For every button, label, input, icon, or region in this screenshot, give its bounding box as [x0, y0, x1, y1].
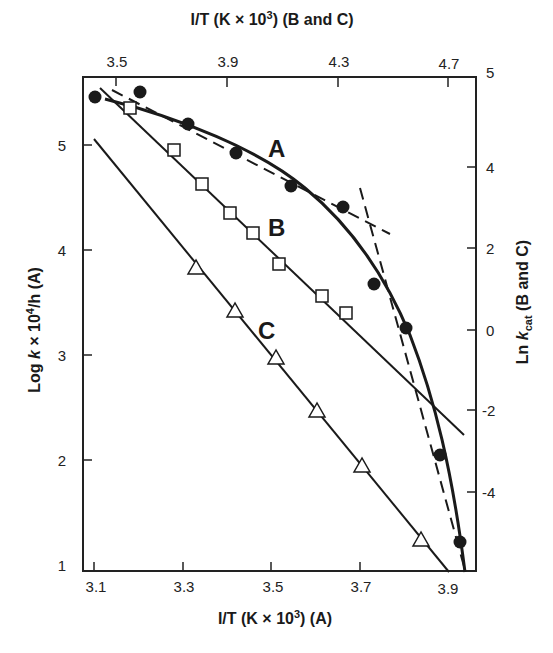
svg-text:4: 4 — [58, 242, 66, 259]
svg-text:3.3: 3.3 — [174, 578, 195, 595]
svg-text:5: 5 — [58, 137, 66, 154]
series-b-label: B — [268, 214, 285, 241]
svg-text:3.9: 3.9 — [218, 53, 239, 70]
left-axis-title: Log k × 104/h (A) — [24, 267, 43, 393]
right-axis-tick-labels: 5 4 2 0 -2 -4 — [482, 64, 495, 501]
svg-text:2: 2 — [58, 452, 66, 469]
left-axis-ticks — [83, 145, 92, 460]
svg-text:4.3: 4.3 — [329, 53, 350, 70]
svg-text:4.7: 4.7 — [439, 55, 460, 72]
svg-text:3: 3 — [58, 347, 66, 364]
arrhenius-chart: 1 2 3 4 5 3.1 3.3 3.5 3.7 3.9 3.5 3.9 4.… — [0, 0, 553, 653]
left-axis-tick-labels: 1 2 3 4 5 — [58, 137, 66, 574]
series-a-dashed-low-temp — [360, 188, 465, 570]
svg-text:3.5: 3.5 — [107, 53, 128, 70]
svg-text:2: 2 — [486, 240, 494, 257]
svg-text:-2: -2 — [482, 402, 495, 419]
series-a-curve — [105, 99, 465, 572]
svg-text:3.1: 3.1 — [86, 578, 107, 595]
right-axis-title: Ln kcat (B and C) — [514, 240, 534, 364]
svg-text:0: 0 — [486, 322, 494, 339]
svg-text:3.5: 3.5 — [263, 578, 284, 595]
top-axis-tick-labels: 3.5 3.9 4.3 4.7 — [107, 53, 460, 72]
svg-text:3.9: 3.9 — [438, 580, 459, 597]
top-axis-title: I/T (K × 103) (B and C) — [190, 9, 353, 28]
svg-text:4: 4 — [486, 159, 494, 176]
svg-text:3.7: 3.7 — [351, 578, 372, 595]
series-c — [94, 139, 449, 572]
bottom-axis-title: I/T (K × 103) (A) — [218, 608, 332, 627]
series-b-markers — [124, 102, 352, 319]
top-axis-ticks — [116, 77, 448, 87]
svg-text:-4: -4 — [482, 484, 495, 501]
series-a-label: A — [268, 135, 285, 162]
bottom-axis-tick-labels: 3.1 3.3 3.5 3.7 3.9 — [86, 578, 459, 597]
svg-text:1: 1 — [58, 557, 66, 574]
right-axis-ticks — [467, 167, 476, 492]
svg-text:5: 5 — [486, 64, 494, 81]
bottom-axis-ticks — [94, 562, 360, 571]
series-c-label: C — [258, 317, 275, 344]
